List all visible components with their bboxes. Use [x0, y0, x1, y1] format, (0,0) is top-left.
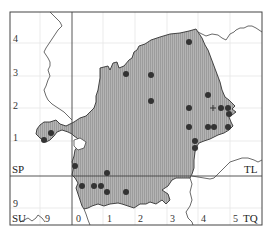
record-dot	[205, 124, 211, 130]
northing-label-9: 9	[13, 199, 18, 209]
record-dot	[72, 163, 78, 169]
record-dot	[91, 183, 97, 189]
grid-square-su: SU	[12, 213, 26, 223]
record-dot	[186, 124, 192, 130]
northing-label-4: 4	[13, 34, 18, 44]
record-dot	[48, 130, 54, 136]
easting-label-5: 5	[233, 214, 238, 224]
distribution-map	[0, 0, 267, 235]
grid-square-sp: SP	[12, 164, 24, 174]
record-dot	[186, 39, 192, 45]
recording-area	[36, 29, 236, 209]
record-dot	[104, 170, 110, 176]
record-dot	[148, 98, 154, 104]
record-dot	[148, 72, 154, 78]
easting-label-9: 9	[45, 214, 50, 224]
northing-label-3: 3	[13, 68, 18, 78]
grid-square-tq: TQ	[243, 213, 258, 223]
easting-label-0: 0	[76, 214, 81, 224]
record-dot	[79, 183, 85, 189]
record-dot	[218, 105, 224, 111]
record-dot	[192, 138, 198, 144]
easting-label-1: 1	[107, 214, 112, 224]
record-dot	[98, 183, 104, 189]
record-dot	[225, 124, 231, 130]
grid-square-tl: TL	[244, 164, 257, 174]
easting-label-2: 2	[138, 214, 143, 224]
record-dot	[192, 145, 198, 151]
easting-label-4: 4	[201, 214, 206, 224]
record-dot	[205, 92, 211, 98]
record-dot	[211, 124, 217, 130]
record-dot	[225, 105, 231, 111]
record-dot	[41, 137, 47, 143]
record-dot	[104, 189, 110, 195]
northing-label-1: 1	[13, 133, 18, 143]
northing-label-2: 2	[13, 101, 18, 111]
record-dot	[186, 105, 192, 111]
easting-label-3: 3	[170, 214, 175, 224]
record-dot	[226, 111, 232, 117]
record-dot	[123, 71, 129, 77]
record-dot	[123, 189, 129, 195]
